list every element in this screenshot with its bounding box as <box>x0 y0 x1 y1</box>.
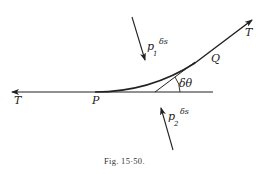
pressure-bottom-suffix: δs <box>180 107 189 116</box>
pressure-top-subscript: 1 <box>153 50 157 58</box>
belt-curve <box>95 20 252 92</box>
pressure-arrow-top <box>132 17 145 60</box>
figure-caption: Fig. 15·50. <box>104 156 145 166</box>
angle-label: δθ <box>179 77 193 90</box>
point-q-label: Q <box>211 52 220 65</box>
tension-right-label: T <box>245 26 254 39</box>
belt-element-diagram: T P Q T δθ p 1 δs p 2 δs Fig. 15·50. <box>0 0 262 174</box>
tension-left-label: T <box>14 94 23 107</box>
point-p-label: P <box>91 94 100 107</box>
pressure-top-suffix: δs <box>159 37 168 46</box>
pressure-bottom-subscript: 2 <box>173 120 179 128</box>
